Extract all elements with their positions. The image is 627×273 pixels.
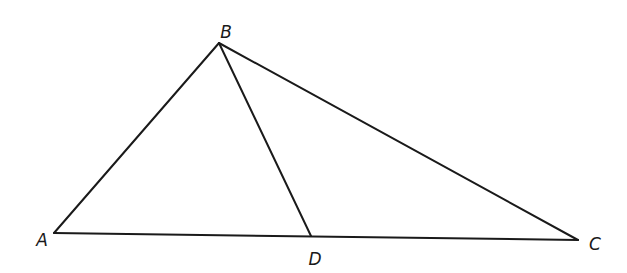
segment-ac	[54, 233, 578, 240]
segment-ab	[54, 43, 219, 233]
segment-bc	[219, 43, 578, 240]
segment-bd	[219, 43, 311, 236]
label-d: D	[308, 249, 321, 269]
label-b: B	[220, 22, 232, 42]
triangle-diagram: A B C D	[0, 0, 627, 273]
label-c: C	[589, 234, 601, 254]
label-a: A	[35, 230, 48, 250]
